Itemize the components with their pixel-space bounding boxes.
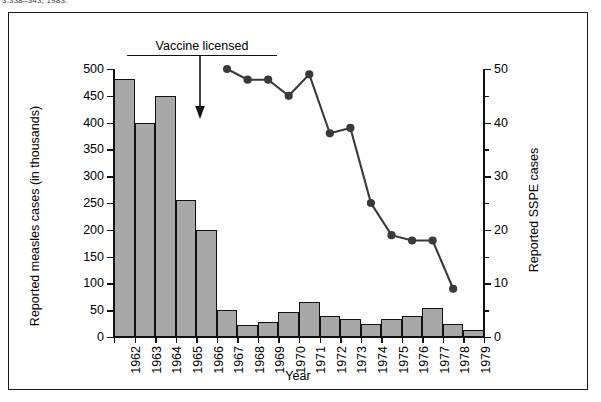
- x-tick: [381, 337, 382, 343]
- x-tick: [402, 337, 403, 343]
- y-left-tick: [107, 69, 114, 70]
- y-left-tick: [107, 203, 114, 204]
- x-tick: [422, 337, 423, 343]
- x-tick-label-1976: 1976: [417, 346, 431, 374]
- plot-wrapper: Reported measles cases (in thousands) Re…: [9, 13, 587, 389]
- sspe-point-1970: [285, 92, 293, 100]
- y-right-tick-label: 30: [494, 170, 508, 183]
- y-right-minor-tick: [484, 257, 489, 258]
- y-left-tick-label: 450: [83, 90, 104, 103]
- x-tick-label-1974: 1974: [376, 346, 390, 374]
- y-right-minor-tick: [484, 96, 489, 97]
- x-tick-label-1970: 1970: [294, 346, 308, 374]
- y-right-minor-tick: [484, 310, 489, 311]
- x-tick: [340, 337, 341, 343]
- y-left-tick-label: 150: [83, 250, 104, 263]
- y-left-tick-label: 500: [83, 63, 104, 76]
- x-tick-label-1969: 1969: [273, 346, 287, 374]
- y-right-tick-label: 10: [494, 277, 508, 290]
- y-right-tick: [484, 230, 491, 231]
- y-right-minor-tick: [484, 149, 489, 150]
- y-left-tick-label: 350: [83, 143, 104, 156]
- x-tick-label-1968: 1968: [253, 346, 267, 374]
- x-tick: [237, 337, 238, 343]
- y-left-tick-label: 100: [83, 277, 104, 290]
- x-tick: [361, 337, 362, 343]
- x-tick: [278, 337, 279, 343]
- x-tick-label-1977: 1977: [438, 346, 452, 374]
- y-left-tick: [107, 337, 114, 338]
- y-right-tick: [484, 283, 491, 284]
- x-tick-label-1967: 1967: [232, 346, 246, 374]
- x-tick: [176, 337, 177, 343]
- x-tick: [463, 337, 464, 343]
- sspe-point-1978: [449, 285, 457, 293]
- y-left-tick-label: 300: [83, 170, 104, 183]
- sspe-point-1971: [305, 70, 313, 78]
- y-left-tick-label: 50: [90, 304, 104, 317]
- x-tick: [258, 337, 259, 343]
- sspe-line-path: [227, 69, 453, 289]
- y-left-tick: [107, 96, 114, 97]
- sspe-line-series: [114, 69, 484, 337]
- x-tick-label-1966: 1966: [212, 346, 226, 374]
- y-right-tick-label: 50: [494, 63, 508, 76]
- x-tick: [196, 337, 197, 343]
- y-right-tick-label: 20: [494, 224, 508, 237]
- y-right-tick: [484, 123, 491, 124]
- x-tick: [155, 337, 156, 343]
- y-left-tick-label: 0: [97, 331, 104, 344]
- y-left-tick-label: 400: [83, 116, 104, 129]
- y-right-tick-label: 0: [494, 331, 501, 344]
- annotation-label: Vaccine licensed: [127, 39, 277, 53]
- y-left-tick: [107, 123, 114, 124]
- x-tick-label-1964: 1964: [170, 346, 184, 374]
- x-tick-label-1971: 1971: [314, 346, 328, 374]
- sspe-point-1976: [408, 236, 416, 244]
- y-left-tick: [107, 176, 114, 177]
- x-tick-label-1972: 1972: [335, 346, 349, 374]
- figure-frame: Reported measles cases (in thousands) Re…: [8, 12, 588, 390]
- x-tick: [299, 337, 300, 343]
- x-tick-label-1973: 1973: [355, 346, 369, 374]
- sspe-point-1977: [429, 236, 437, 244]
- y-axis-right-title: Reported SSPE cases: [527, 110, 541, 310]
- y-right-tick-label: 40: [494, 116, 508, 129]
- sspe-point-1972: [326, 129, 334, 137]
- vaccine-licensed-annotation: Vaccine licensed: [127, 39, 277, 56]
- y-axis-left-title: Reported measles cases (in thousands): [28, 86, 42, 346]
- y-right-minor-tick: [484, 203, 489, 204]
- x-tick-label-1963: 1963: [150, 346, 164, 374]
- x-tick: [217, 337, 218, 343]
- sspe-point-1975: [387, 231, 395, 239]
- plot-area: 050100150200250300350400450500 010203040…: [114, 69, 484, 337]
- x-tick-label-1978: 1978: [458, 346, 472, 374]
- sspe-point-1969: [264, 76, 272, 84]
- y-right-tick: [484, 176, 491, 177]
- y-left-tick-label: 250: [83, 197, 104, 210]
- x-tick: [135, 337, 136, 343]
- y-left-tick-label: 200: [83, 224, 104, 237]
- y-left-tick: [107, 310, 114, 311]
- sspe-point-1974: [367, 199, 375, 207]
- x-tick: [484, 337, 485, 343]
- y-left-tick: [107, 257, 114, 258]
- x-tick: [114, 337, 115, 343]
- x-tick-label-1962: 1962: [129, 346, 143, 374]
- x-tick: [320, 337, 321, 343]
- x-tick-label-1975: 1975: [397, 346, 411, 374]
- y-left-tick: [107, 283, 114, 284]
- sspe-point-1967: [223, 65, 231, 73]
- x-tick-label-1965: 1965: [191, 346, 205, 374]
- x-tick: [443, 337, 444, 343]
- sspe-point-1968: [244, 76, 252, 84]
- y-left-tick: [107, 149, 114, 150]
- y-right-tick: [484, 69, 491, 70]
- y-left-tick: [107, 230, 114, 231]
- citation-text: 3:338–343, 1983.: [2, 0, 67, 5]
- x-tick-label-1979: 1979: [479, 346, 493, 374]
- sspe-point-1973: [346, 124, 354, 132]
